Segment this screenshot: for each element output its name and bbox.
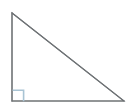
triangle-svg [0,0,128,109]
triangle-figure: Right triangle A right triangle with the… [0,0,128,109]
